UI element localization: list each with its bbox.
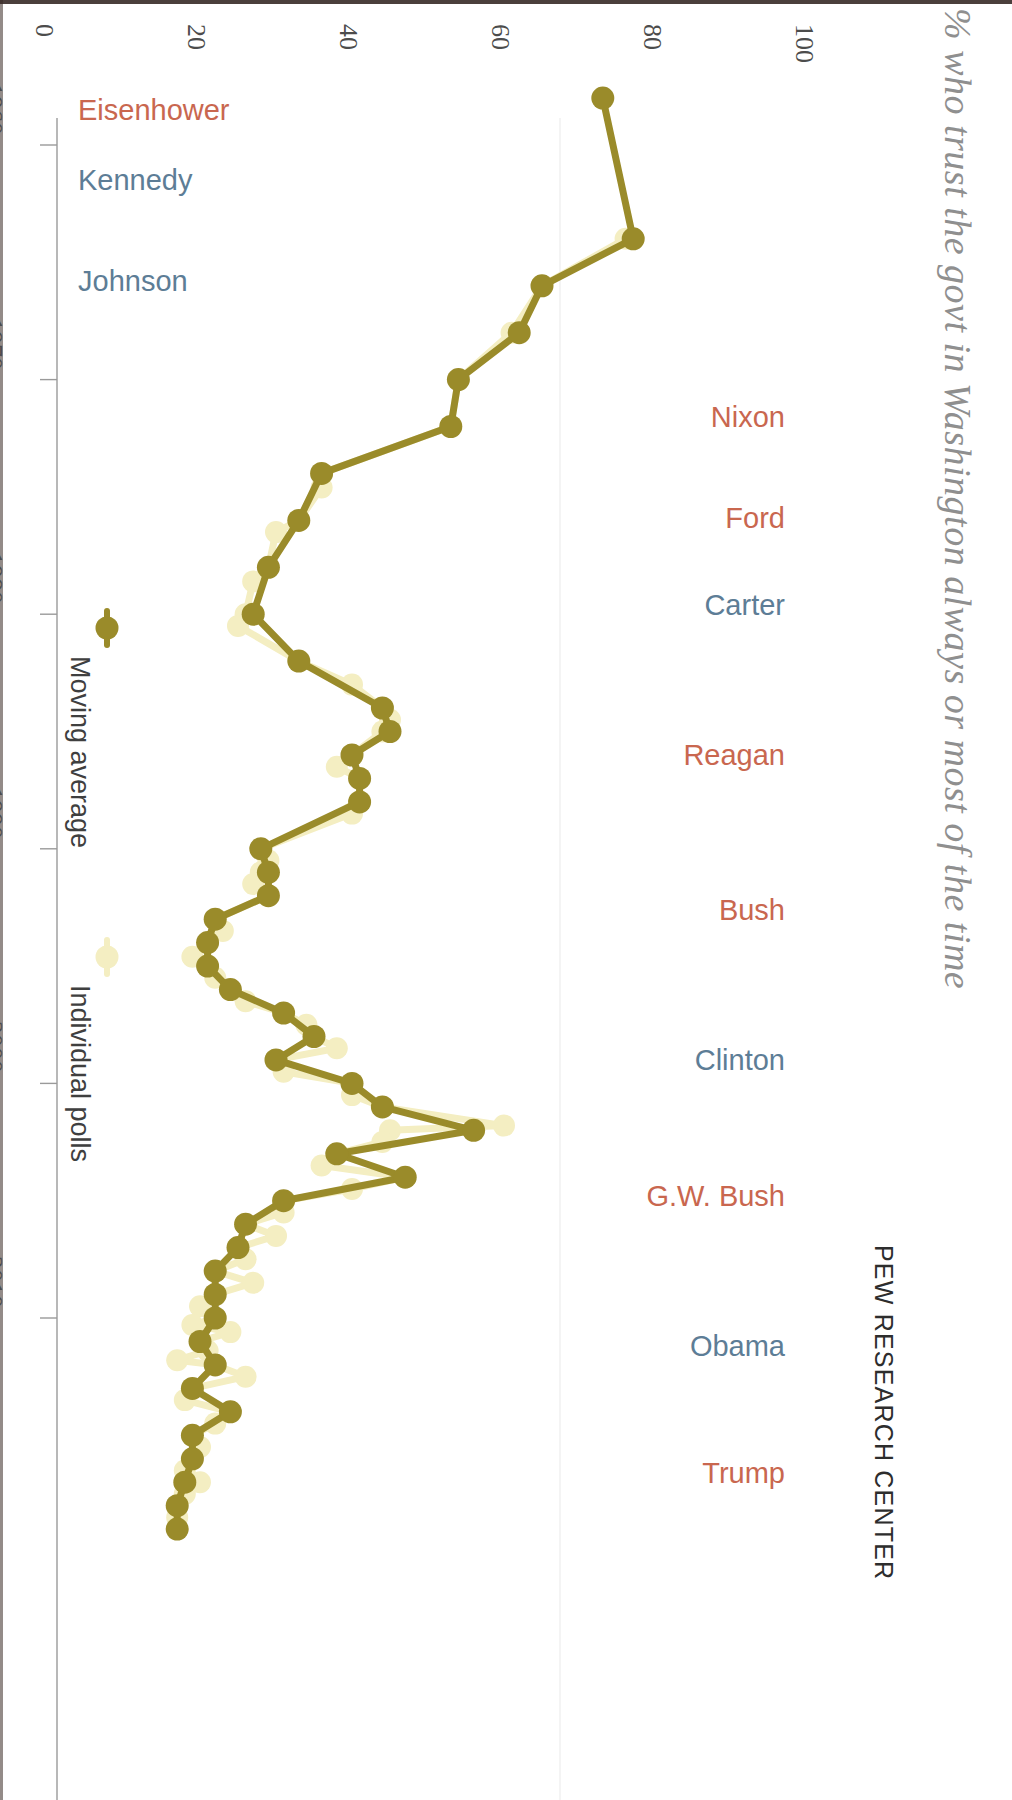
source-attribution: PEW RESEARCH CENTER bbox=[869, 1245, 898, 1580]
moving-average-point bbox=[272, 1189, 295, 1212]
moving-average-point bbox=[348, 767, 371, 790]
moving-average-point bbox=[257, 884, 280, 907]
moving-average-markers bbox=[166, 87, 645, 1541]
president-label-g-w-bush: G.W. Bush bbox=[646, 1180, 785, 1213]
chart-title: % who trust the govt in Washington alway… bbox=[936, 8, 980, 989]
legend-marker-dot bbox=[96, 617, 119, 640]
moving-average-point bbox=[242, 603, 265, 626]
moving-average-point bbox=[287, 509, 310, 532]
moving-average-point bbox=[173, 1471, 196, 1494]
moving-average-point bbox=[204, 908, 227, 931]
individual-polls-markers bbox=[166, 228, 636, 1540]
individual-poll-point bbox=[493, 1115, 515, 1137]
value-axis-tick-label: 40 bbox=[333, 24, 363, 50]
year-axis-tick-label: 2010 bbox=[0, 1256, 8, 1308]
moving-average-point bbox=[204, 1260, 227, 1283]
moving-average-point bbox=[196, 955, 219, 978]
moving-average-point bbox=[249, 837, 272, 860]
moving-average-point bbox=[234, 1213, 257, 1236]
moving-average-point bbox=[181, 1424, 204, 1447]
president-label-reagan: Reagan bbox=[683, 738, 785, 771]
value-axis-tick-label: 0 bbox=[29, 24, 59, 37]
president-label-obama: Obama bbox=[690, 1330, 785, 1363]
value-axis-tick-label: 80 bbox=[637, 24, 667, 50]
moving-average-line bbox=[177, 98, 633, 1529]
president-label-clinton: Clinton bbox=[695, 1043, 785, 1076]
moving-average-point bbox=[371, 1095, 394, 1118]
moving-average-point bbox=[371, 697, 394, 720]
moving-average-point bbox=[181, 1447, 204, 1470]
moving-average-point bbox=[447, 368, 470, 391]
moving-average-point bbox=[622, 227, 645, 250]
moving-average-point bbox=[303, 1025, 326, 1048]
legend-label-moving-average: Moving average bbox=[64, 656, 95, 848]
moving-average-point bbox=[219, 1400, 242, 1423]
individual-poll-point bbox=[326, 1037, 348, 1059]
individual-poll-point bbox=[242, 1272, 264, 1294]
individual-poll-point bbox=[235, 1366, 257, 1388]
legend-marker-dot bbox=[96, 946, 119, 969]
moving-average-point bbox=[310, 462, 333, 485]
moving-average-point bbox=[394, 1166, 417, 1189]
moving-average-point bbox=[348, 790, 371, 813]
value-axis-tick-label: 100 bbox=[789, 24, 819, 63]
moving-average-point bbox=[227, 1236, 250, 1259]
president-label-ford: Ford bbox=[725, 502, 785, 535]
moving-average-point bbox=[181, 1377, 204, 1400]
value-axis-tick-label: 60 bbox=[485, 24, 515, 50]
year-axis-tick-label: 1970 bbox=[0, 318, 8, 370]
moving-average-point bbox=[325, 1142, 348, 1165]
legend-label-individual-polls: Individual polls bbox=[64, 985, 95, 1162]
moving-average-point bbox=[508, 321, 531, 344]
year-axis-tick-label: 2000 bbox=[0, 1021, 8, 1073]
moving-average-point bbox=[196, 931, 219, 954]
moving-average-point bbox=[219, 978, 242, 1001]
president-label-johnson: Johnson bbox=[78, 265, 188, 298]
moving-average-point bbox=[272, 1002, 295, 1025]
moving-average-point bbox=[204, 1283, 227, 1306]
moving-average-point bbox=[166, 1518, 189, 1541]
moving-average-point bbox=[204, 1353, 227, 1376]
moving-average-point bbox=[204, 1307, 227, 1330]
president-label-kennedy: Kennedy bbox=[78, 164, 193, 197]
moving-average-point bbox=[257, 861, 280, 884]
moving-average-point bbox=[287, 650, 310, 673]
moving-average-point bbox=[439, 415, 462, 438]
moving-average-point bbox=[341, 1072, 364, 1095]
moving-average-point bbox=[531, 274, 554, 297]
president-label-carter: Carter bbox=[704, 588, 785, 621]
year-axis-tick-label: 1980 bbox=[0, 552, 8, 604]
moving-average-point bbox=[265, 1048, 288, 1071]
individual-poll-point bbox=[166, 1349, 188, 1371]
moving-average-point bbox=[379, 720, 402, 743]
value-axis-tick-label: 20 bbox=[181, 24, 211, 50]
moving-average-point bbox=[341, 744, 364, 767]
moving-average-point bbox=[189, 1330, 212, 1353]
president-label-bush: Bush bbox=[719, 893, 785, 926]
year-axis-tick-label: 1960 bbox=[0, 83, 8, 135]
president-label-nixon: Nixon bbox=[711, 401, 785, 434]
legend-markers bbox=[96, 611, 119, 974]
president-label-trump: Trump bbox=[702, 1456, 785, 1489]
moving-average-point bbox=[591, 87, 614, 110]
chart-plot-area: 020406080100 196019701980199020002010 Ei… bbox=[0, 0, 1012, 1800]
moving-average-point bbox=[462, 1119, 485, 1142]
moving-average-path bbox=[177, 98, 633, 1529]
individual-poll-point bbox=[265, 1225, 287, 1247]
year-axis-tick-label: 1990 bbox=[0, 787, 8, 839]
moving-average-point bbox=[166, 1494, 189, 1517]
president-label-eisenhower: Eisenhower bbox=[78, 93, 230, 126]
moving-average-point bbox=[257, 556, 280, 579]
